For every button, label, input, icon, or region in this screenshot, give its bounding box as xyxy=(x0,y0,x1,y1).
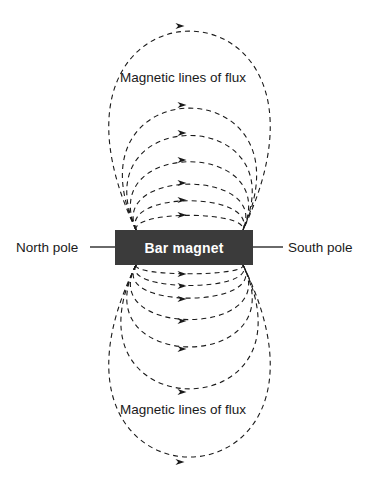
flux-arrowhead xyxy=(178,283,187,289)
flux-arrowhead xyxy=(178,318,187,324)
flux-arrowhead xyxy=(178,180,187,186)
bar-magnet-label: Bar magnet xyxy=(144,240,223,256)
flux-arrowhead xyxy=(176,459,185,465)
flux-line xyxy=(130,265,248,320)
flux-line xyxy=(136,265,243,274)
flux-arrowhead xyxy=(178,296,187,302)
flux-line xyxy=(133,265,246,298)
flux-arrowhead xyxy=(178,197,187,203)
flux-arrowhead xyxy=(176,23,185,29)
south-pole-label: South pole xyxy=(288,240,353,255)
flux-arrowhead xyxy=(178,102,187,108)
magnetic-field-diagram: Bar magnet North pole South pole Magneti… xyxy=(0,0,366,487)
flux-line xyxy=(127,265,252,347)
flux-line xyxy=(135,265,244,285)
flux-line xyxy=(121,265,258,389)
north-pole-label: North pole xyxy=(16,240,78,255)
flux-line xyxy=(109,31,270,230)
flux-line xyxy=(136,215,243,230)
flux-arrowhead xyxy=(178,212,187,218)
flux-line xyxy=(109,265,270,457)
flux-caption-top: Magnetic lines of flux xyxy=(0,70,366,85)
flux-caption-bottom: Magnetic lines of flux xyxy=(0,402,366,417)
flux-arrowhead xyxy=(178,389,187,395)
bar-magnet: Bar magnet xyxy=(115,230,253,265)
